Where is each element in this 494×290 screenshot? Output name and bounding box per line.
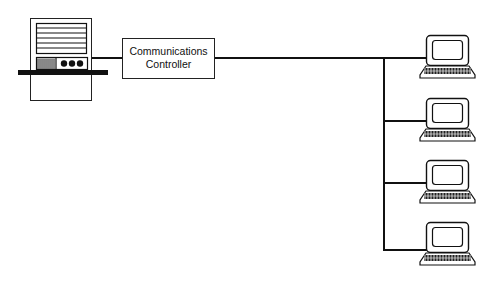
keyboard-icon — [420, 129, 475, 141]
host-buttons-icon — [61, 60, 83, 66]
keyboard-icon — [420, 66, 475, 78]
host-display-icon — [37, 24, 87, 54]
terminal-3 — [384, 161, 475, 204]
terminal-1 — [384, 36, 475, 79]
controller-label-line1: Communications — [129, 45, 207, 57]
controller-bus-link — [215, 58, 384, 61]
screen-icon — [433, 104, 463, 123]
host-table-bar — [18, 70, 108, 75]
communications-controller: Communications Controller — [123, 39, 215, 79]
screen-icon — [433, 166, 463, 185]
controller-label-line2: Controller — [146, 58, 192, 70]
terminal-bus — [384, 57, 428, 250]
keyboard-icon — [420, 191, 475, 203]
screen-icon — [433, 41, 463, 60]
keyboard-icon — [420, 253, 475, 265]
terminal-2 — [384, 99, 475, 142]
terminal-4 — [420, 223, 475, 266]
network-diagram: Communications Controller — [0, 0, 494, 290]
host-computer — [18, 19, 108, 101]
screen-icon — [433, 228, 463, 247]
